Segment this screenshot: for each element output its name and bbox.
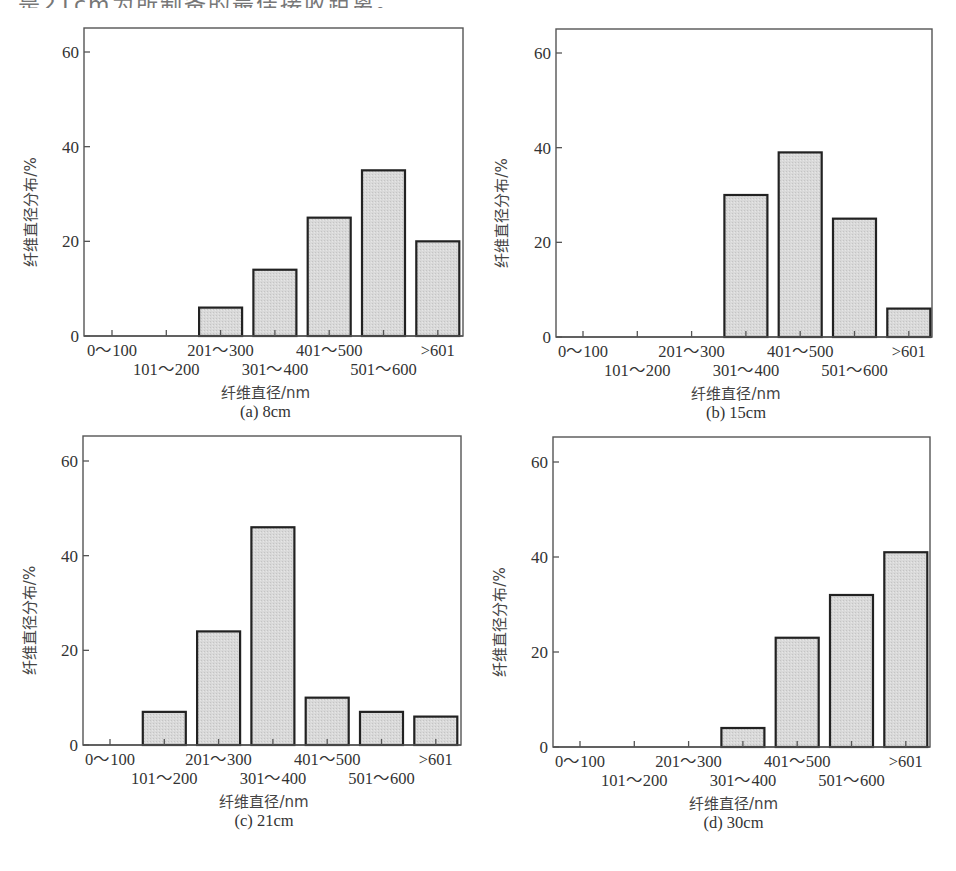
x-category-label: 401～500: [764, 752, 831, 771]
chart-panel-d: 02040600～100101～200201～300301～400401～500…: [0, 0, 470, 420]
x-category-label: 301～400: [710, 771, 777, 790]
y-tick-label: 0: [540, 738, 549, 757]
y-axis-title: 纤维直径分布/%: [491, 567, 509, 676]
y-tick-label: 40: [531, 548, 548, 567]
x-category-label: 0～100: [555, 752, 605, 771]
bar-chart-d: 02040600～100101～200201～300301～400401～500…: [0, 0, 956, 871]
panel-caption: (d) 30cm: [703, 813, 763, 832]
x-category-label: >601: [889, 752, 923, 771]
bar-5: [830, 595, 873, 747]
x-axis-title: 纤维直径/nm: [689, 795, 778, 813]
x-category-label: 101～200: [601, 771, 668, 790]
bar-4: [776, 638, 819, 747]
x-category-label: 201～300: [655, 752, 722, 771]
y-tick-label: 60: [531, 453, 548, 472]
x-category-label: 501～600: [818, 771, 885, 790]
y-tick-label: 20: [531, 643, 548, 662]
bar-6: [884, 552, 927, 747]
